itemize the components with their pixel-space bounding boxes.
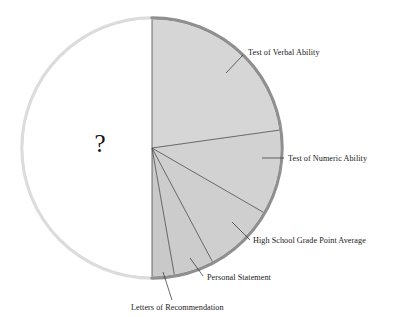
- slice-label: Personal Statement: [207, 273, 272, 282]
- pie-chart-figure: Test of Verbal AbilityTest of Numeric Ab…: [0, 0, 411, 317]
- slice-label: Test of Numeric Ability: [288, 154, 368, 163]
- pie-slice-unknown[interactable]: [23, 20, 152, 277]
- slice-label: Test of Verbal Ability: [248, 48, 320, 57]
- slice-label: Letters of Recommendation: [131, 303, 224, 312]
- pie-slice[interactable]: [152, 20, 279, 149]
- slice-label: High School Grade Point Average: [253, 236, 366, 245]
- unknown-question-mark: ?: [94, 130, 105, 157]
